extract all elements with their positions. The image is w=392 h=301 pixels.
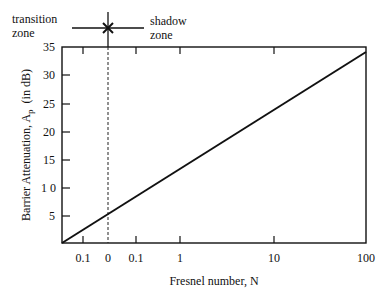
transition-zone-label-2: zone xyxy=(12,26,35,40)
svg-text:0.1: 0.1 xyxy=(129,251,144,265)
svg-text:15: 15 xyxy=(43,153,55,167)
svg-text:1: 1 xyxy=(177,251,183,265)
zone-marker xyxy=(72,12,144,47)
svg-text:1 0: 1 0 xyxy=(41,181,56,195)
svg-text:25: 25 xyxy=(43,97,55,111)
svg-text:10: 10 xyxy=(268,251,280,265)
y-ticks xyxy=(62,75,70,216)
svg-text:35: 35 xyxy=(43,40,55,54)
svg-text:100: 100 xyxy=(357,251,375,265)
shadow-zone-label-2: zone xyxy=(150,28,173,42)
svg-text:Barrier Attenuation, Ap(in dB): Barrier Attenuation, Ap(in dB) xyxy=(19,69,35,221)
x-ticks-bottom xyxy=(83,236,274,243)
x-tick-labels: 0.1 0 0.1 1 10 100 xyxy=(76,251,376,265)
svg-text:0: 0 xyxy=(105,251,111,265)
x-axis-label: Fresnel number, N xyxy=(169,274,259,288)
svg-text:30: 30 xyxy=(43,68,55,82)
svg-text:5: 5 xyxy=(49,209,55,223)
svg-text:0.1: 0.1 xyxy=(76,251,91,265)
y-axis-label: Barrier Attenuation, Ap(in dB) xyxy=(19,69,35,221)
shadow-zone-label: shadow xyxy=(150,14,187,28)
transition-zone-label: transition xyxy=(12,12,57,26)
svg-text:20: 20 xyxy=(43,125,55,139)
x-ticks-top xyxy=(83,47,274,54)
chart: transition zone shadow zone 35 30 25 20 … xyxy=(0,0,392,301)
y-tick-labels: 35 30 25 20 15 1 0 5 xyxy=(41,40,56,223)
